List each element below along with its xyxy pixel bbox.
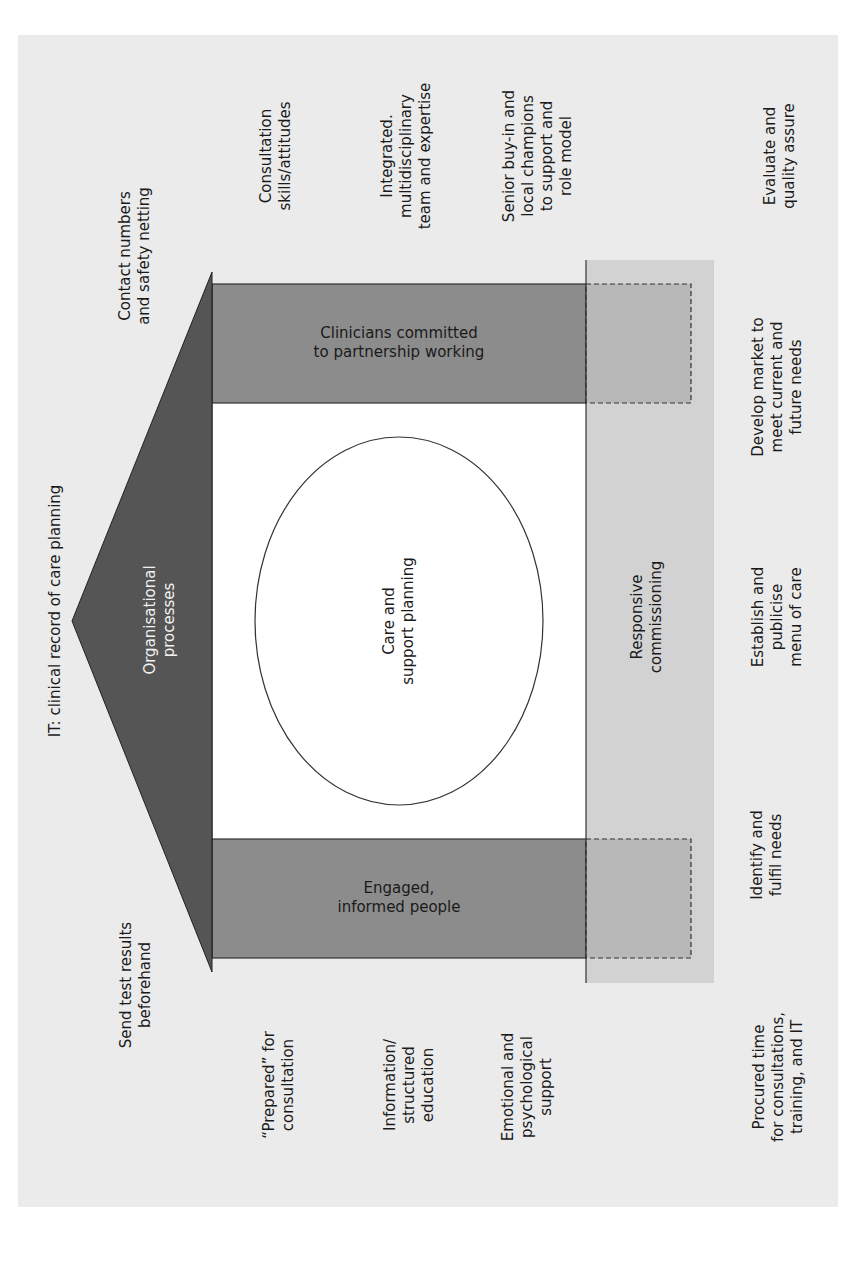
pillar-left-label: Engaged, informed people — [337, 879, 460, 917]
foundation-annotation-1: Evaluate and quality assure — [761, 103, 799, 208]
roof-top-annotation: IT: clinical record of care planning — [46, 485, 65, 738]
pillar-right-label: Clinicians committed to partnership work… — [314, 324, 485, 362]
roof-label: Organisational processes — [141, 565, 179, 674]
left-pillar-annotation-3: Emotional and psychological support — [499, 1033, 556, 1141]
foundation-label: Responsive commissioning — [628, 561, 666, 674]
pillar-left-foundation-extension — [586, 839, 691, 958]
left-pillar-annotation-2: Information/ structured education — [381, 1039, 438, 1131]
pillar-right-foundation-extension — [586, 284, 691, 403]
left-pillar-annotation-1: “Prepared” for consultation — [260, 1031, 298, 1139]
foundation-annotation-4: Identify and fulfil needs — [748, 810, 786, 900]
foundation-annotation-2: Develop market to meet current and futur… — [749, 317, 806, 457]
centre-label: Care and support planning — [380, 557, 418, 684]
right-pillar-annotation-1: Consultation skills/attitudes — [257, 102, 295, 211]
foundation-annotation-5: Procured time for consultations, trainin… — [750, 1012, 807, 1142]
roof-right-annotation: Contact numbers and safety netting — [116, 187, 154, 325]
foundation-annotation-3: Establish and publicise menu of care — [749, 567, 806, 668]
right-pillar-annotation-2: Integrated. multidisciplinary team and e… — [378, 83, 435, 230]
right-pillar-annotation-3: Senior buy-in and local champions to sup… — [500, 90, 576, 222]
roof-left-annotation: Send test results beforehand — [117, 922, 155, 1048]
